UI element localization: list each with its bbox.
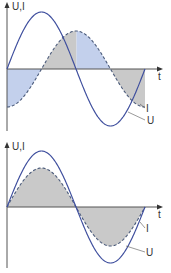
diagram-canvas: U,I t I U U,I t I U (0, 0, 171, 273)
voltage-leader-line (126, 246, 145, 252)
positive-power-area (111, 69, 145, 107)
top-y-axis-label: U,I (12, 1, 25, 12)
negative-power-area (7, 69, 42, 107)
bottom-diagram (5, 142, 164, 268)
top-current-label: I (146, 103, 149, 114)
bottom-current-label: I (146, 223, 149, 234)
top-voltage-label: U (147, 115, 154, 126)
bottom-y-axis-label: U,I (12, 141, 25, 152)
y-axis-arrow-icon (5, 2, 10, 8)
bottom-x-axis-label: t (158, 209, 161, 220)
positive-power-area (42, 31, 77, 69)
top-x-axis-label: t (158, 71, 161, 82)
negative-power-area (77, 31, 112, 70)
y-axis-arrow-icon (5, 142, 10, 148)
bottom-voltage-label: U (146, 247, 153, 258)
top-diagram (5, 2, 164, 131)
current-leader-line (140, 222, 145, 228)
voltage-leader-line (128, 112, 145, 120)
